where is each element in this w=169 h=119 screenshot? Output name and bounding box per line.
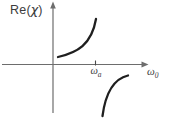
tick-subscript: a [98, 70, 102, 79]
omega-symbol: ω [147, 65, 155, 77]
y-axis-arrow-icon [50, 2, 56, 9]
curve-below-resonance [58, 19, 96, 57]
omega-symbol: ω [90, 65, 97, 76]
resonance-tick-label: ωa [85, 66, 107, 77]
plot-canvas [0, 0, 169, 119]
dispersion-plot: Re(χ) ωa ω0 [0, 0, 169, 119]
x-axis-subscript: 0 [155, 71, 159, 80]
x-axis-label: ω0 [147, 66, 159, 77]
y-axis-label-prefix: Re( [10, 3, 31, 17]
y-axis-label-suffix: ) [38, 3, 42, 17]
y-axis-label: Re(χ) [10, 4, 43, 17]
curve-above-resonance [103, 76, 129, 117]
